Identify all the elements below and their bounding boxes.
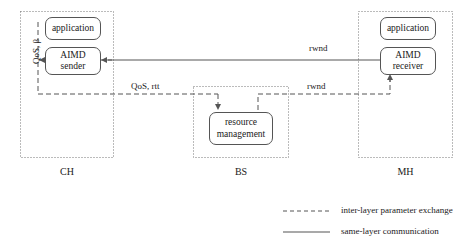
node-mh-application[interactable]: application (380, 17, 436, 40)
node-mh-aimd-receiver-label-line1: AIMD (395, 50, 420, 61)
container-label-bs: BS (193, 166, 289, 177)
node-ch-application-label: application (52, 23, 94, 34)
node-ch-aimd-sender[interactable]: AIMD sender (45, 47, 101, 75)
label-rwnd-bottom: rwnd (307, 81, 326, 91)
node-bs-resource-management-label-line1: resource (225, 117, 257, 128)
node-ch-aimd-sender-label-line2: sender (61, 61, 86, 72)
label-qos-rtt: QoS, rtt (131, 81, 160, 91)
diagram-canvas: application AIMD sender resource managem… (0, 0, 469, 249)
node-bs-resource-management-label-line2: management (217, 129, 266, 140)
legend-label-same-layer: same-layer communication (341, 226, 439, 236)
container-label-ch: CH (20, 166, 114, 177)
label-rwnd-top: rwnd (309, 43, 328, 53)
container-label-mh: MH (358, 166, 453, 177)
legend-label-inter-layer: inter-layer parameter exchange (341, 205, 453, 215)
node-mh-application-label: application (387, 23, 429, 34)
label-qos-beta: QoS, β (31, 39, 41, 64)
node-bs-resource-management[interactable]: resource management (209, 112, 273, 145)
node-mh-aimd-receiver[interactable]: AIMD receiver (380, 47, 436, 75)
node-ch-aimd-sender-label-line1: AIMD (60, 50, 85, 61)
node-ch-application[interactable]: application (45, 17, 101, 40)
node-mh-aimd-receiver-label-line2: receiver (393, 61, 424, 72)
